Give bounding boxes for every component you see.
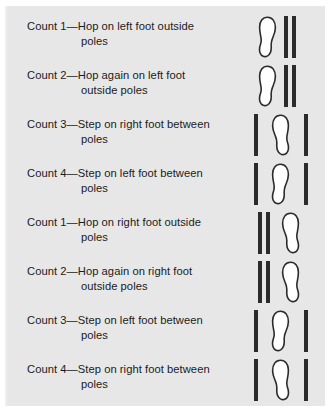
step-text-line-2: outside poles xyxy=(27,83,249,98)
pole-bar xyxy=(254,359,258,401)
pole-bar xyxy=(258,261,262,303)
step-diagram xyxy=(245,359,317,401)
step-diagram xyxy=(245,310,317,352)
step-text-line-1: Count 1—Hop on left foot outside xyxy=(27,19,249,34)
pole-bar xyxy=(254,310,258,352)
step-diagram xyxy=(245,16,317,58)
pole-bar xyxy=(254,163,258,205)
step-text-line-1: Count 3—Step on left foot between xyxy=(27,313,249,328)
step-diagram xyxy=(245,114,317,156)
instruction-figure-panel: Count 1—Hop on left foot outside poles C… xyxy=(5,6,325,406)
pole-bar xyxy=(304,359,308,401)
step-diagram xyxy=(245,65,317,107)
footprint-icon xyxy=(281,261,300,303)
step-text-line-2: outside poles xyxy=(27,279,249,294)
step-instruction-text: Count 3—Step on left foot between poles xyxy=(27,313,249,342)
step-text-line-1: Count 2—Hop again on left foot xyxy=(27,68,249,83)
step-text-line-2: poles xyxy=(27,181,249,196)
step-text-line-2: poles xyxy=(27,230,249,245)
step-row: Count 4—Step on left foot between poles xyxy=(5,159,325,208)
footprint-icon xyxy=(281,212,300,254)
pole-bar xyxy=(304,163,308,205)
pole-bar xyxy=(284,65,288,107)
footprint-icon xyxy=(271,359,290,401)
step-text-line-1: Count 2—Hop again on right foot xyxy=(27,264,249,279)
step-text-line-2: poles xyxy=(27,34,249,49)
pole-bar xyxy=(304,114,308,156)
step-instruction-text: Count 3—Step on right foot between poles xyxy=(27,117,249,146)
step-instruction-text: Count 4—Step on left foot between poles xyxy=(27,166,249,195)
footprint-icon xyxy=(271,310,290,352)
step-text-line-1: Count 4—Step on right foot between xyxy=(27,362,249,377)
step-instruction-text: Count 2—Hop again on right foot outside … xyxy=(27,264,249,293)
footprint-icon xyxy=(271,114,290,156)
step-row: Count 3—Step on left foot between poles xyxy=(5,306,325,355)
step-text-line-1: Count 4—Step on left foot between xyxy=(27,166,249,181)
step-text-line-2: poles xyxy=(27,377,249,392)
step-row: Count 4—Step on right foot between poles xyxy=(5,355,325,404)
step-row: Count 2—Hop again on right foot outside … xyxy=(5,257,325,306)
step-row: Count 2—Hop again on left foot outside p… xyxy=(5,61,325,110)
step-instruction-text: Count 1—Hop on left foot outside poles xyxy=(27,19,249,48)
step-instruction-text: Count 1—Hop on right foot outside poles xyxy=(27,215,249,244)
footprint-icon xyxy=(258,65,277,107)
pole-bar xyxy=(284,16,288,58)
step-diagram xyxy=(245,212,317,254)
pole-bar xyxy=(266,212,270,254)
step-text-line-2: poles xyxy=(27,328,249,343)
pole-bar xyxy=(258,212,262,254)
pole-bar xyxy=(292,16,296,58)
step-text-line-1: Count 1—Hop on right foot outside xyxy=(27,215,249,230)
pole-bar xyxy=(254,114,258,156)
pole-bar xyxy=(266,261,270,303)
step-instruction-text: Count 2—Hop again on left foot outside p… xyxy=(27,68,249,97)
step-diagram xyxy=(245,261,317,303)
pole-bar xyxy=(304,310,308,352)
step-text-line-2: poles xyxy=(27,132,249,147)
step-row: Count 1—Hop on left foot outside poles xyxy=(5,12,325,61)
step-instruction-text: Count 4—Step on right foot between poles xyxy=(27,362,249,391)
step-row: Count 3—Step on right foot between poles xyxy=(5,110,325,159)
step-diagram xyxy=(245,163,317,205)
pole-bar xyxy=(292,65,296,107)
step-text-line-1: Count 3—Step on right foot between xyxy=(27,117,249,132)
step-row: Count 1—Hop on right foot outside poles xyxy=(5,208,325,257)
footprint-icon xyxy=(258,16,277,58)
footprint-icon xyxy=(271,163,290,205)
